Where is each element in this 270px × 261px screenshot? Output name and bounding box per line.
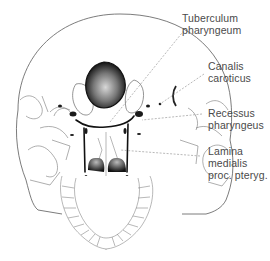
label-canalis-caroticus: Canalis caroticus (208, 60, 251, 84)
label-line: Recessus (208, 107, 264, 119)
lateral-structures (20, 96, 230, 186)
label-recessus-pharyngeus: Recessus pharyngeus (208, 107, 264, 131)
label-line: pharyngeus (208, 119, 264, 131)
label-line: proc. pteryg. (208, 169, 268, 181)
pharynx-outline (76, 116, 134, 172)
leader-recessus (142, 114, 202, 120)
label-line: pharyngeum (182, 24, 241, 36)
anatomical-diagram: Tuberculum pharyngeum Canalis caroticus … (0, 0, 270, 261)
choanae (88, 158, 126, 172)
dental-arch (61, 176, 153, 249)
carotid-canal-mark (173, 86, 176, 106)
leader-canalis (160, 74, 204, 104)
label-tuberculum-pharyngeum: Tuberculum pharyngeum (182, 12, 241, 36)
leader-lamina (120, 150, 200, 156)
label-line: medialis (208, 157, 268, 169)
label-line: Tuberculum (182, 12, 241, 24)
label-line: caroticus (208, 72, 251, 84)
label-lamina-medialis: Lamina medialis proc. pteryg. (208, 145, 268, 181)
label-line: Lamina (208, 145, 268, 157)
label-line: Canalis (208, 60, 251, 72)
central-dark-mass (86, 62, 126, 108)
